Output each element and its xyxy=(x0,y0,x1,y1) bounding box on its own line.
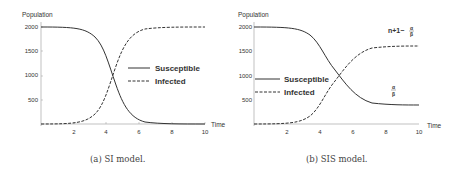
svg-text:10: 10 xyxy=(202,129,209,135)
annotation-infected-asymptote: n+1− α β xyxy=(388,25,414,37)
caption-si: (a) SI model. xyxy=(90,154,145,164)
sis-chart: Population 2000 1500 1000 500 2 4 6 8 10… xyxy=(238,11,442,135)
legend-infected: Infected xyxy=(155,77,186,86)
infected-line xyxy=(41,27,205,124)
svg-text:2: 2 xyxy=(285,129,289,135)
svg-text:8: 8 xyxy=(384,129,388,135)
legend: Susceptible Infected xyxy=(128,64,200,86)
x-axis-label: Time xyxy=(211,121,226,128)
legend-susceptible: Susceptible xyxy=(155,64,200,73)
svg-text:2000: 2000 xyxy=(25,24,39,30)
svg-text:500: 500 xyxy=(242,97,253,103)
svg-text:1500: 1500 xyxy=(239,48,253,54)
svg-text:β: β xyxy=(410,31,413,37)
svg-text:1500: 1500 xyxy=(25,48,39,54)
svg-text:6: 6 xyxy=(137,129,141,135)
svg-text:4: 4 xyxy=(104,129,108,135)
x-ticks: 2 4 6 8 10 xyxy=(285,129,423,135)
legend-susceptible: Susceptible xyxy=(284,75,329,84)
y-ticks: 2000 1500 1000 500 xyxy=(25,24,43,103)
annotation-susceptible-asymptote: α β xyxy=(391,84,396,97)
svg-text:10: 10 xyxy=(416,129,423,135)
svg-text:8: 8 xyxy=(170,129,174,135)
y-axis-label: Population xyxy=(22,11,53,19)
svg-text:500: 500 xyxy=(28,97,39,103)
svg-text:1000: 1000 xyxy=(239,73,253,79)
x-axis-label: Time xyxy=(427,122,442,129)
legend: Susceptible Infected xyxy=(255,75,329,97)
svg-text:α: α xyxy=(392,84,396,90)
y-ticks: 2000 1500 1000 500 xyxy=(239,24,253,103)
susceptible-line xyxy=(41,27,205,124)
svg-text:4: 4 xyxy=(318,129,322,135)
svg-text:1000: 1000 xyxy=(25,72,39,78)
svg-text:2: 2 xyxy=(72,129,76,135)
legend-infected: Infected xyxy=(284,88,315,97)
si-chart: Population 2000 1500 1000 500 2 4 6 8 10… xyxy=(22,11,226,135)
y-axis-label: Population xyxy=(238,11,269,19)
caption-sis: (b) SIS model. xyxy=(306,154,368,164)
svg-text:2000: 2000 xyxy=(239,24,253,30)
svg-text:n+1−: n+1− xyxy=(388,27,404,34)
figure: Population 2000 1500 1000 500 2 4 6 8 10… xyxy=(0,0,464,176)
svg-text:6: 6 xyxy=(351,129,355,135)
svg-text:β: β xyxy=(392,91,395,97)
